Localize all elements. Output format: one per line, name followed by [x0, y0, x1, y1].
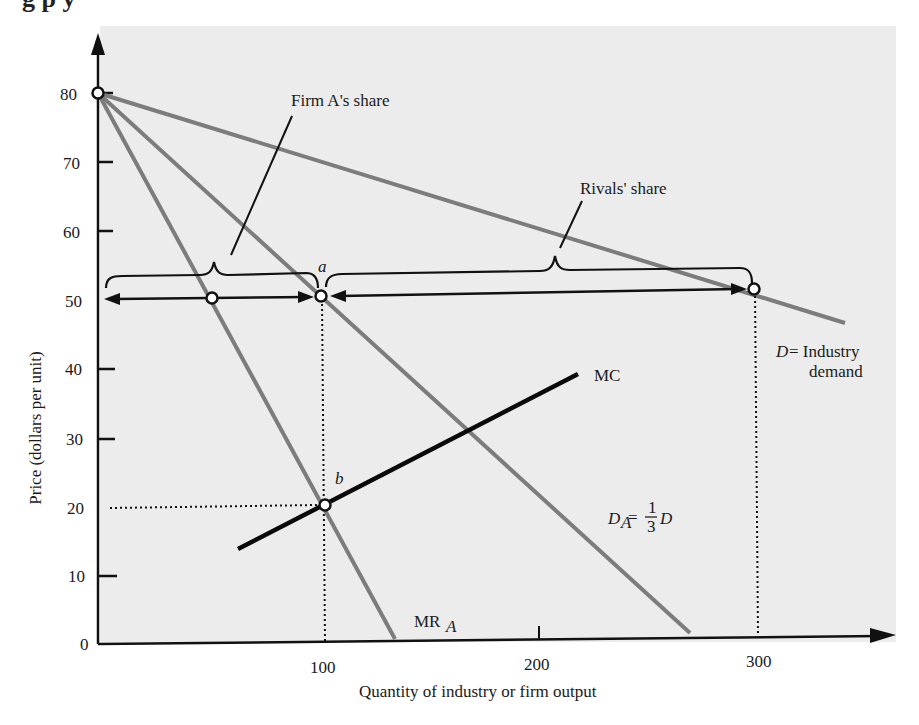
point-mr-at-50	[207, 293, 218, 304]
svg-text:1: 1	[648, 498, 657, 517]
x-tick-200: 200	[524, 655, 550, 674]
dotted-q100	[322, 299, 325, 642]
svg-text:demand: demand	[809, 362, 863, 381]
y-tick-30: 30	[66, 430, 83, 449]
svg-text:A: A	[445, 617, 457, 636]
x-axis-title: Quantity of industry or firm output	[359, 682, 597, 701]
point-b-label: b	[335, 469, 344, 488]
mr-label: MR A	[414, 612, 457, 636]
header-text-fragment: g p y	[22, 0, 75, 14]
firm-a-demand-line	[98, 93, 690, 633]
point-industry-300	[749, 284, 760, 295]
firm-share-label: Firm A's share	[291, 91, 389, 110]
y-axis-arrow-icon	[91, 33, 105, 55]
y-tick-50: 50	[65, 292, 82, 311]
svg-text:3: 3	[647, 517, 656, 536]
svg-text:MR: MR	[414, 612, 441, 631]
svg-text:= Industry: = Industry	[789, 342, 860, 361]
dotted-p20	[110, 505, 318, 508]
rivals-share-label: Rivals' share	[580, 179, 667, 198]
x-axis-arrow-icon	[870, 628, 896, 643]
y-tick-0: 0	[80, 635, 89, 654]
firm-demand-label: D A = 1 3 D	[607, 498, 673, 536]
marginal-cost-line	[238, 374, 578, 549]
rivals-share-brace	[326, 256, 752, 287]
point-price-80	[93, 88, 104, 99]
svg-text:=: =	[628, 508, 638, 527]
dotted-q300	[755, 291, 758, 635]
svg-text:D: D	[775, 342, 789, 361]
y-tick-20: 20	[67, 499, 84, 518]
y-tick-70: 70	[63, 154, 80, 173]
y-axis-title: Price (dollars per unit)	[26, 351, 45, 504]
mc-label: MC	[594, 366, 620, 385]
x-tick-100: 100	[310, 658, 336, 677]
svg-text:D: D	[607, 509, 621, 528]
y-tick-60: 60	[63, 223, 80, 242]
industry-demand-label: D = Industry demand	[775, 342, 863, 381]
y-tick-10: 10	[68, 567, 85, 586]
x-axis	[98, 626, 896, 644]
x-tick-300: 300	[746, 652, 772, 671]
y-tick-80: 80	[60, 85, 77, 104]
chart: 80 70 60 50 40 30 20 10 0 100 200 300 Qu…	[0, 0, 919, 725]
y-tick-40: 40	[65, 360, 82, 379]
point-a-label: a	[318, 257, 327, 276]
svg-text:D: D	[659, 509, 673, 528]
marginal-revenue-line	[98, 93, 395, 639]
point-b	[320, 500, 331, 511]
point-a	[316, 291, 327, 302]
